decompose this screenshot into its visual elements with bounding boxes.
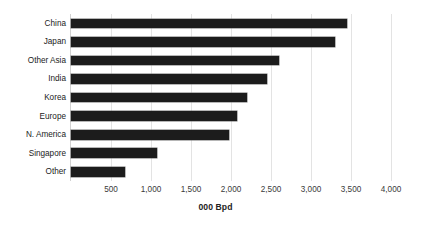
x-axis-tick-3500: 3,500 bbox=[341, 185, 362, 195]
bar bbox=[71, 148, 157, 158]
y-axis-label-singapore: Singapore bbox=[0, 149, 66, 158]
bar-row bbox=[71, 144, 391, 163]
bar bbox=[71, 130, 229, 140]
y-axis-label-n-america: N. America bbox=[0, 130, 66, 139]
x-axis-tick-4000: 4,000 bbox=[381, 185, 402, 195]
y-axis-label-other: Other bbox=[0, 167, 66, 176]
y-axis-label-china: China bbox=[0, 19, 66, 28]
bar-row bbox=[71, 88, 391, 107]
x-axis-tick-500: 500 bbox=[104, 185, 118, 195]
bar-row bbox=[71, 162, 391, 181]
x-axis-tick-1000: 1,000 bbox=[141, 185, 162, 195]
bar bbox=[71, 167, 125, 177]
x-axis-tick-2500: 2,500 bbox=[261, 185, 282, 195]
bar-row bbox=[71, 14, 391, 33]
bar bbox=[71, 56, 279, 66]
x-axis-tick-1500: 1,500 bbox=[181, 185, 202, 195]
bar-row bbox=[71, 107, 391, 126]
plot-area bbox=[71, 14, 391, 181]
x-axis-tick-2000: 2,000 bbox=[221, 185, 242, 195]
bar bbox=[71, 93, 247, 103]
bar-row bbox=[71, 51, 391, 70]
bar bbox=[71, 37, 335, 47]
bar-chart: ChinaJapanOther AsiaIndiaKoreaEuropeN. A… bbox=[0, 0, 421, 225]
y-axis-category-labels: ChinaJapanOther AsiaIndiaKoreaEuropeN. A… bbox=[0, 14, 66, 181]
y-axis-label-korea: Korea bbox=[0, 93, 66, 102]
bar-row bbox=[71, 125, 391, 144]
y-axis-label-europe: Europe bbox=[0, 112, 66, 121]
bar bbox=[71, 111, 237, 121]
bar-row bbox=[71, 70, 391, 89]
y-axis-label-japan: Japan bbox=[0, 37, 66, 46]
bar bbox=[71, 19, 347, 29]
bar bbox=[71, 74, 267, 84]
x-axis-title-label: 000 Bpd bbox=[198, 202, 232, 213]
x-axis-tick-3000: 3,000 bbox=[301, 185, 322, 195]
gridline bbox=[391, 14, 392, 181]
y-axis-label-india: India bbox=[0, 74, 66, 83]
x-axis-title: 000 Bpd bbox=[0, 202, 421, 213]
y-axis-label-other-asia: Other Asia bbox=[0, 56, 66, 65]
x-axis-tick-labels: 5001,0001,5002,0002,5003,0003,5004,000 bbox=[71, 185, 391, 197]
bar-row bbox=[71, 33, 391, 52]
